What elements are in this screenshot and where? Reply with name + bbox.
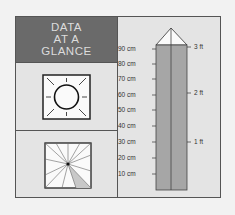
title-header: DATA AT A GLANCE — [16, 17, 117, 62]
sun-panel — [16, 62, 117, 131]
cm-tick-40: 40 cm — [118, 122, 136, 129]
data-at-a-glance-panel: DATA AT A GLANCE — [15, 16, 221, 198]
left-column: DATA AT A GLANCE — [16, 17, 118, 197]
cm-tick-10: 10 cm — [118, 170, 136, 177]
title-line-2: AT A — [16, 33, 117, 45]
ft-tick-1: 1 ft — [194, 138, 203, 145]
height-ruler-panel: 90 cm 80 cm 70 cm 60 cm 50 cm 40 cm 30 c… — [118, 17, 221, 197]
title-line-3: GLANCE — [16, 45, 117, 57]
cm-tick-30: 30 cm — [118, 138, 136, 145]
cm-tick-50: 50 cm — [118, 106, 136, 113]
title-line-1: DATA — [16, 21, 117, 33]
cm-tick-80: 80 cm — [118, 60, 136, 67]
sun-icon — [16, 63, 117, 131]
ft-tick-3: 3 ft — [194, 43, 203, 50]
ft-tick-2: 2 ft — [194, 89, 203, 96]
pie-spoke-icon — [16, 131, 117, 198]
cm-tick-60: 60 cm — [118, 91, 136, 98]
cm-tick-70: 70 cm — [118, 75, 136, 82]
cm-tick-90: 90 cm — [118, 45, 136, 52]
cm-tick-20: 20 cm — [118, 154, 136, 161]
spoke-panel — [16, 131, 117, 198]
